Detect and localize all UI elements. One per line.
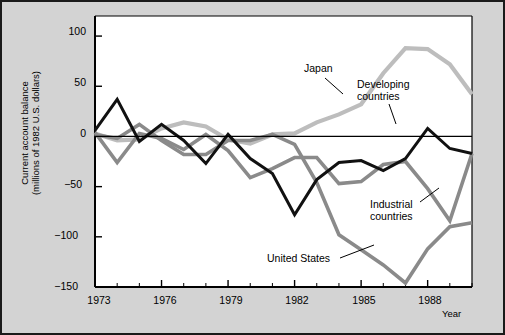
x-tick-label-1985: 1985 — [341, 294, 387, 306]
series-annotation-developing-line2: countries — [357, 90, 410, 102]
plot-background — [95, 16, 472, 287]
series-annotation-industrial-line1: Industrial — [370, 198, 413, 210]
series-annotation-developing: Developing countries — [357, 78, 410, 102]
series-annotation-united-states: United States — [267, 252, 330, 264]
y-axis-title: Current account balance (millions of 198… — [19, 43, 41, 223]
x-tick-label-1973: 1973 — [76, 294, 122, 306]
y-axis-title-line2: (millions of 1982 U.S. dollars) — [30, 43, 41, 223]
x-tick-label-1976: 1976 — [142, 294, 188, 306]
y-tick-label-neg50: −50 — [46, 178, 82, 190]
series-annotation-japan: Japan — [304, 62, 333, 74]
y-tick-label-0: 0 — [50, 127, 86, 139]
y-tick-label-neg150: −150 — [42, 280, 78, 292]
y-tick-label-50: 50 — [50, 76, 86, 88]
x-axis-title: Year — [442, 308, 461, 319]
y-tick-label-neg100: −100 — [42, 229, 78, 241]
series-annotation-industrial: Industrial countries — [370, 198, 413, 222]
y-tick-label-100: 100 — [50, 25, 86, 37]
chart-figure: Current account balance (millions of 198… — [0, 0, 505, 335]
x-tick-label-1982: 1982 — [274, 294, 320, 306]
x-tick-label-1979: 1979 — [208, 294, 254, 306]
series-annotation-industrial-line2: countries — [370, 210, 413, 222]
series-annotation-developing-line1: Developing — [357, 78, 410, 90]
y-axis-title-line1: Current account balance — [19, 43, 30, 223]
x-tick-label-1988: 1988 — [407, 294, 453, 306]
